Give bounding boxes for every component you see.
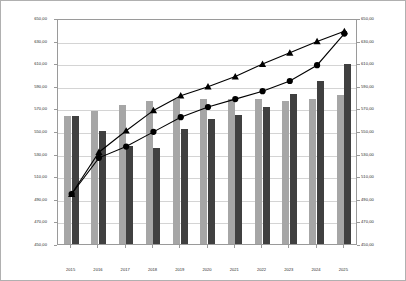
axis-tick <box>97 245 98 248</box>
triangle-marker-icon <box>150 107 157 113</box>
axis-tick <box>54 19 57 20</box>
y-axis-tick-label: 630,00 <box>34 40 47 44</box>
axis-tick <box>54 64 57 65</box>
y-axis-tick-label: 590,00 <box>34 85 47 89</box>
triangle-marker-icon <box>232 73 239 79</box>
x-axis-tick-label: 2024 <box>312 267 321 272</box>
y-axis-tick-label: 510,00 <box>34 175 47 179</box>
y-axis-tick-label-secondary: 650,00 <box>361 17 374 21</box>
axis-tick <box>54 200 57 201</box>
axis-tick <box>357 64 360 65</box>
y-axis-tick-label-secondary: 610,00 <box>361 62 374 66</box>
circle-marker-icon <box>123 143 129 149</box>
x-axis-tick-label: 2020 <box>202 267 211 272</box>
axis-tick <box>179 245 180 248</box>
x-axis-tick-label: 2022 <box>257 267 266 272</box>
y-axis-tick-label: 610,00 <box>34 62 47 66</box>
y-axis-tick-label-secondary: 630,00 <box>361 40 374 44</box>
y-axis-tick-label: 570,00 <box>34 107 47 111</box>
axis-tick <box>357 200 360 201</box>
x-axis-tick-label: 2017 <box>121 267 130 272</box>
triangle-marker-icon <box>123 127 130 133</box>
circle-marker-icon <box>69 191 75 197</box>
y-axis-tick-label-secondary: 490,00 <box>361 198 374 202</box>
circle-marker-icon <box>232 96 238 102</box>
axis-tick <box>288 245 289 248</box>
circle-marker-icon <box>259 88 265 94</box>
y-axis-tick-label-secondary: 510,00 <box>361 175 374 179</box>
axis-tick <box>234 245 235 248</box>
line-series <box>72 31 345 194</box>
plot-area <box>57 19 357 245</box>
axis-tick <box>54 177 57 178</box>
axis-tick <box>261 245 262 248</box>
chart-container: Barwert und Eigenkapital in € Barwert +/… <box>0 0 406 281</box>
y-axis-tick-label-secondary: 530,00 <box>361 153 374 157</box>
circle-marker-icon <box>178 114 184 120</box>
axis-tick <box>357 177 360 178</box>
line-series <box>72 34 345 194</box>
axis-tick <box>357 87 360 88</box>
y-axis-tick-label-secondary: 550,00 <box>361 130 374 134</box>
axis-tick <box>54 109 57 110</box>
lines-layer <box>58 20 357 245</box>
x-axis-tick-label: 2016 <box>93 267 102 272</box>
axis-tick <box>357 222 360 223</box>
axis-tick <box>125 245 126 248</box>
axis-tick <box>316 245 317 248</box>
axis-tick <box>152 245 153 248</box>
x-axis-tick-label: 2015 <box>66 267 75 272</box>
axis-tick <box>357 245 360 246</box>
circle-marker-icon <box>287 78 293 84</box>
circle-marker-icon <box>341 30 347 36</box>
x-axis-tick-label: 2018 <box>148 267 157 272</box>
axis-tick <box>357 132 360 133</box>
y-axis-tick-label: 550,00 <box>34 130 47 134</box>
circle-marker-icon <box>205 104 211 110</box>
triangle-marker-icon <box>259 60 266 66</box>
axis-tick <box>54 222 57 223</box>
y-axis-tick-label: 470,00 <box>34 220 47 224</box>
y-axis-tick-label: 490,00 <box>34 198 47 202</box>
axis-tick <box>54 87 57 88</box>
y-axis-tick-label: 530,00 <box>34 153 47 157</box>
axis-tick <box>54 42 57 43</box>
axis-tick <box>357 19 360 20</box>
axis-tick <box>54 245 57 246</box>
axis-tick <box>70 245 71 248</box>
circle-marker-icon <box>96 155 102 161</box>
axis-tick <box>357 155 360 156</box>
y-axis-tick-label-secondary: 590,00 <box>361 85 374 89</box>
x-axis-tick-label: 2025 <box>339 267 348 272</box>
plot-wrapper: 2015201620172018201920202021202220232024… <box>57 19 357 245</box>
x-axis-tick-label: 2023 <box>284 267 293 272</box>
axis-tick <box>54 155 57 156</box>
y-axis-tick-label-secondary: 470,00 <box>361 220 374 224</box>
triangle-marker-icon <box>286 49 293 55</box>
axis-tick <box>54 132 57 133</box>
axis-tick <box>357 42 360 43</box>
y-axis-tick-label-secondary: 570,00 <box>361 107 374 111</box>
circle-marker-icon <box>150 129 156 135</box>
axis-tick <box>207 245 208 248</box>
y-axis-tick-label: 650,00 <box>34 17 47 21</box>
x-axis-tick-label: 2019 <box>175 267 184 272</box>
axis-tick <box>343 245 344 248</box>
circle-marker-icon <box>314 62 320 68</box>
y-axis-tick-label: 450,00 <box>34 243 47 247</box>
axis-tick <box>357 109 360 110</box>
y-axis-tick-label-secondary: 450,00 <box>361 243 374 247</box>
x-axis-tick-label: 2021 <box>230 267 239 272</box>
